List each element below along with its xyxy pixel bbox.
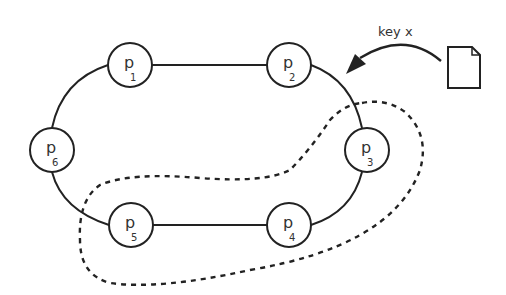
node-p2: p 2 — [267, 43, 311, 87]
svg-text:2: 2 — [289, 72, 295, 83]
edge-p3-p4 — [311, 172, 362, 225]
svg-text:p: p — [283, 213, 293, 232]
svg-text:p: p — [125, 213, 135, 232]
key-label: key x — [378, 24, 413, 39]
svg-text:3: 3 — [367, 157, 373, 168]
ring-diagram: p 1 p 2 p 3 p 4 p 5 p 6 key x — [0, 0, 506, 295]
arrow-icon — [346, 45, 441, 74]
node-p5: p 5 — [109, 203, 153, 247]
edge-p2-p3 — [311, 65, 362, 128]
edge-p5-p6 — [52, 172, 109, 225]
svg-text:p: p — [46, 138, 56, 157]
edge-p6-p1 — [52, 65, 108, 128]
svg-text:4: 4 — [289, 232, 295, 243]
svg-text:6: 6 — [52, 157, 58, 168]
node-p4: p 4 — [267, 203, 311, 247]
node-p1: p 1 — [108, 43, 152, 87]
svg-text:1: 1 — [130, 72, 136, 83]
svg-text:5: 5 — [131, 232, 137, 243]
svg-text:p: p — [124, 53, 134, 72]
document-icon — [448, 47, 480, 88]
svg-text:p: p — [283, 53, 293, 72]
node-p3: p 3 — [345, 128, 389, 172]
svg-text:p: p — [361, 138, 371, 157]
node-p6: p 6 — [30, 128, 74, 172]
ring-edges — [52, 65, 362, 225]
